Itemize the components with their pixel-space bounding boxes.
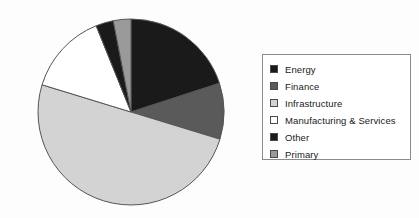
- legend-swatch-manufacturing-services: [270, 116, 278, 124]
- legend-item-energy[interactable]: Energy: [270, 61, 410, 77]
- legend-label-primary: Primary: [285, 149, 318, 160]
- chart-legend: Energy Finance Infrastructure Manufactur…: [262, 54, 411, 160]
- legend-item-infrastructure[interactable]: Infrastructure: [270, 95, 410, 111]
- legend-label-energy: Energy: [285, 64, 316, 75]
- legend-item-other[interactable]: Other: [270, 129, 410, 145]
- legend-item-finance[interactable]: Finance: [270, 78, 410, 94]
- legend-label-infrastructure: Infrastructure: [285, 98, 342, 109]
- legend-label-other: Other: [285, 132, 309, 143]
- pie-slice-group: [38, 19, 224, 205]
- legend-item-manufacturing-services[interactable]: Manufacturing & Services: [270, 112, 410, 128]
- legend-swatch-finance: [270, 82, 278, 90]
- pie-chart-figure: Energy Finance Infrastructure Manufactur…: [0, 0, 419, 218]
- legend-label-finance: Finance: [285, 81, 320, 92]
- legend-swatch-primary: [270, 150, 278, 158]
- legend-swatch-energy: [270, 65, 278, 73]
- legend-item-primary[interactable]: Primary: [270, 146, 410, 162]
- legend-swatch-infrastructure: [270, 99, 278, 107]
- legend-label-manufacturing-services: Manufacturing & Services: [285, 115, 396, 126]
- legend-swatch-other: [270, 133, 278, 141]
